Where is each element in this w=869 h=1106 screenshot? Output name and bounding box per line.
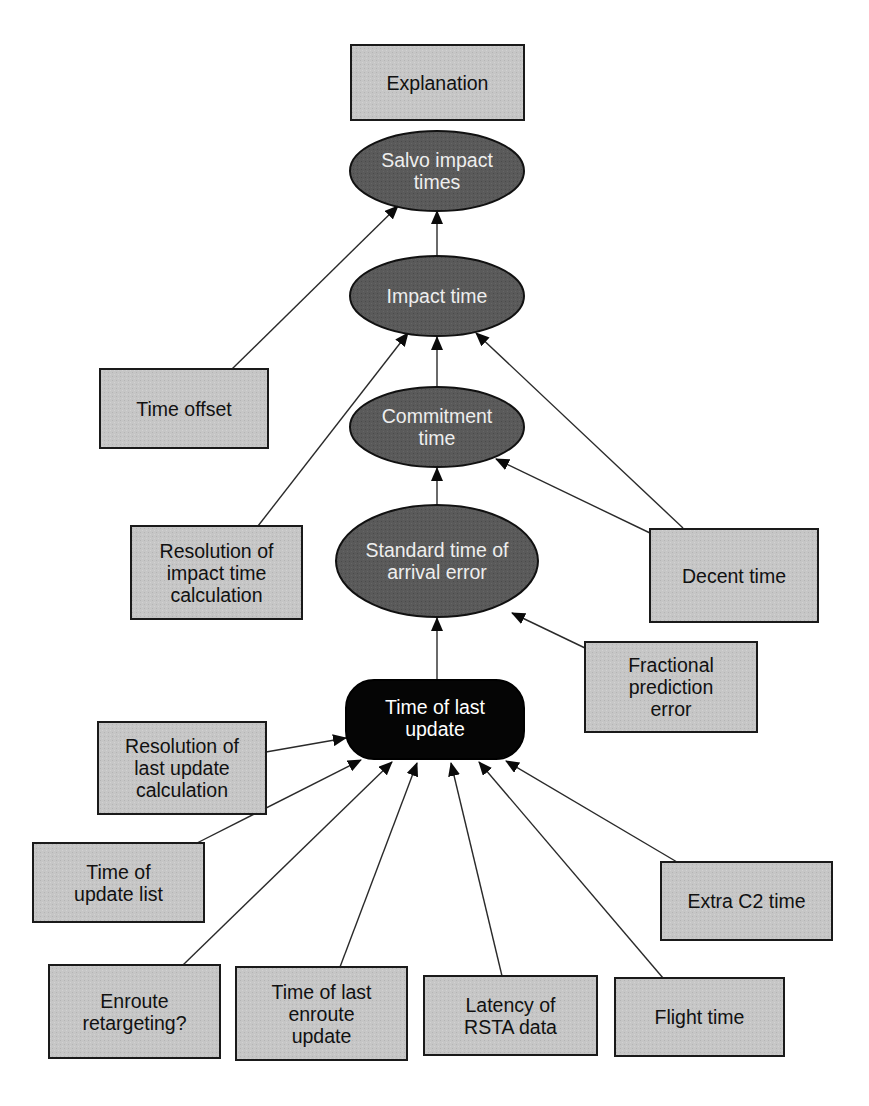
edge-latency-to-last-update [451,763,502,976]
time-last-enroute-update-label: Time of last enroute update [236,967,407,1060]
time-of-last-update-label: Time of last update [346,678,524,757]
standard-time-arrival-error-label: Standard time of arrival error [336,505,538,617]
edge-fractional-to-standard [512,613,585,648]
fractional-prediction-error-label: Fractional prediction error [585,642,757,732]
enroute-retargeting-label: Enroute retargeting? [49,965,220,1058]
edge-resolution-last-to-last-update [266,738,346,752]
edge-extra-c2-to-last-update [506,761,677,862]
edge-flight-time-to-last-update [479,762,663,978]
latency-rsta-data-label: Latency of RSTA data [424,976,597,1055]
commitment-time-label: Commitment time [350,387,524,467]
flight-time-label: Flight time [615,978,784,1056]
decent-time-label: Decent time [650,529,818,622]
resolution-impact-time-label: Resolution of impact time calculation [131,526,302,619]
explanation-label: Explanation [351,45,524,120]
time-offset-label: Time offset [100,369,268,448]
edge-last-enroute-to-last-update [340,763,417,967]
impact-time-label: Impact time [350,256,524,336]
time-of-update-list-label: Time of update list [33,843,204,922]
salvo-impact-times-label: Salvo impact times [350,131,524,211]
resolution-last-update-label: Resolution of last update calculation [98,722,266,814]
extra-c2-time-label: Extra C2 time [661,862,832,940]
